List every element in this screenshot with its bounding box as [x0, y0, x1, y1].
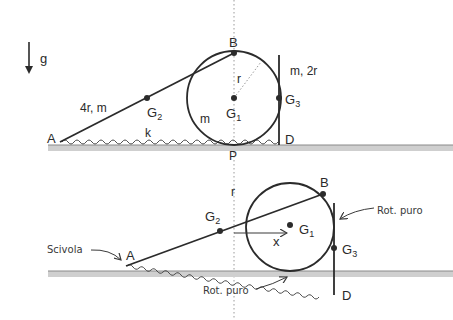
top-label-disk-mass: m [200, 112, 210, 126]
top-label-G2: G2 [147, 105, 162, 122]
bottom-label-B: B [320, 175, 329, 190]
bottom-label-x: x [273, 234, 280, 249]
top-label-rod: 4r, m [80, 101, 107, 115]
bottom-center-G1 [287, 222, 293, 228]
bottom-label-G1: G1 [299, 222, 314, 239]
bottom-center-G3 [331, 245, 337, 251]
annotation-pure-rolling-bar: Rot. puro [377, 205, 423, 216]
annotation-pure-rolling-ground: Rot. puro [203, 285, 249, 296]
top-label-bar: m, 2r [290, 64, 317, 78]
bottom-label-G2: G2 [205, 209, 220, 226]
annotation-pure-rolling-bar-arrow-icon [340, 208, 374, 219]
bottom-label-A: A [126, 248, 135, 263]
top-label-spring: k [145, 126, 152, 140]
top-center-G3 [276, 95, 282, 101]
top-label-D: D [285, 132, 294, 147]
bottom-ground [48, 271, 453, 277]
bottom-point-B [320, 191, 326, 197]
bottom-label-G3: G3 [342, 242, 357, 259]
top-label-B: B [229, 35, 238, 50]
top-label-G1: G1 [226, 106, 241, 123]
top-panel: A B D P r 4r, m m k m, 2r G1 G2 G3 [47, 35, 453, 163]
top-label-P: P [229, 149, 237, 163]
top-center-G2 [144, 95, 150, 101]
annotation-slides: Scivola [47, 244, 83, 255]
top-label-A: A [47, 131, 56, 146]
top-center-G1 [231, 95, 237, 101]
top-label-G3: G3 [285, 92, 300, 109]
top-ground [48, 145, 453, 151]
gravity-label: g [40, 51, 47, 66]
top-label-radius: r [237, 72, 241, 86]
annotation-pure-rolling-ground-arrow-icon [256, 277, 287, 289]
top-point-B [231, 50, 237, 56]
bottom-label-axis: r [231, 185, 235, 199]
bottom-panel: A B D r x G1 G2 G3 Scivola Rot. puro Rot… [47, 175, 453, 303]
mechanics-diagram: g A B D P r 4r, m m k m, 2r G1 G2 G3 [0, 0, 453, 320]
bottom-label-D: D [342, 288, 351, 303]
bottom-center-G2 [217, 228, 223, 234]
bottom-rod [126, 194, 323, 266]
annotation-slides-arrow-icon [91, 250, 121, 260]
gravity-indicator: g [29, 42, 47, 72]
